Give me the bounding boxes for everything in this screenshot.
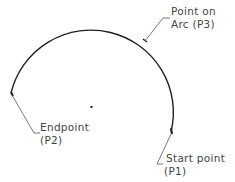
p3-label-line1: Point on bbox=[171, 5, 216, 17]
p3-label-line2: Arc (P3) bbox=[171, 18, 215, 30]
arc bbox=[11, 30, 173, 132]
p2-label-line2: (P2) bbox=[40, 134, 62, 146]
p1-label-line1: Start point bbox=[166, 152, 225, 164]
p1-label-line2: (P1) bbox=[164, 165, 186, 177]
center-point bbox=[91, 106, 93, 108]
p2-label-line1: Endpoint bbox=[40, 121, 89, 133]
p1-marker bbox=[171, 128, 172, 134]
p2-leader bbox=[12, 95, 40, 133]
p3-leader bbox=[145, 18, 170, 41]
